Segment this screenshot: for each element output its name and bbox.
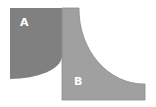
label-b: B [74, 76, 82, 87]
region-a-shape [10, 8, 62, 79]
label-a: A [20, 17, 29, 28]
